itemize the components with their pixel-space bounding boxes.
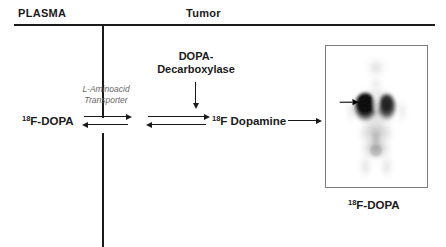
imaging-arrow-head-icon <box>316 118 322 124</box>
pathway-figure: PLASMA Tumor DOPA- Decarboxylase L-Amino… <box>0 0 446 247</box>
transport-arrow-reverse-head-icon <box>82 122 88 128</box>
plasma-tumor-membrane-divider-lower <box>102 133 104 247</box>
transport-arrow-forward-shaft <box>84 116 128 117</box>
compartment-label-plasma: PLASMA <box>18 7 66 19</box>
enzyme-arrow-head-icon <box>193 103 199 109</box>
enzyme-label: DOPA- Decarboxylase <box>140 50 252 76</box>
pet-scan-image <box>325 45 428 188</box>
decarboxylation-arrow-forward-head-icon <box>204 114 210 120</box>
species-label-f-dopamine: 18F Dopamine <box>212 114 286 127</box>
decarboxylation-arrow-forward-shaft <box>148 116 206 117</box>
caption-text: F-DOPA <box>356 199 399 211</box>
compartment-horizontal-rule <box>14 24 435 26</box>
transporter-label: L-Aminoacid Transporter <box>60 84 152 106</box>
transport-arrow-reverse-shaft <box>84 124 128 125</box>
transport-arrow-forward-head-icon <box>126 114 132 120</box>
species-text-f-dopamine: F Dopamine <box>220 115 286 127</box>
enzyme-label-line1: DOPA- <box>140 50 252 63</box>
enzyme-arrow-shaft <box>195 82 196 105</box>
species-text-f-dopa: F-DOPA <box>30 115 73 127</box>
transporter-label-line2: Transporter <box>60 95 152 106</box>
imaging-arrow-shaft <box>288 120 318 121</box>
pet-image-caption: 18F-DOPA <box>348 198 400 211</box>
decarboxylation-arrow-reverse-head-icon <box>146 122 152 128</box>
pet-scan-graphic <box>326 46 427 187</box>
transporter-label-line1: L-Aminoacid <box>60 84 152 95</box>
decarboxylation-arrow-reverse-shaft <box>148 124 206 125</box>
enzyme-label-line2: Decarboxylase <box>140 63 252 76</box>
compartment-label-tumor: Tumor <box>186 7 221 19</box>
species-label-f-dopa: 18F-DOPA <box>22 114 74 127</box>
